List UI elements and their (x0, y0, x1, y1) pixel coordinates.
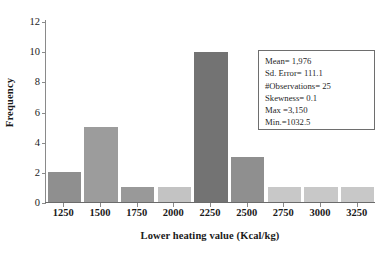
y-axis-title: Frequency (2, 0, 18, 204)
bar (121, 187, 154, 202)
y-axis-tick-label: 0 (18, 198, 40, 209)
statistics-box: Mean= 1,976Sd. Error= 111.1#Observations… (258, 50, 375, 130)
y-axis-tick-mark (42, 82, 46, 83)
x-axis-tick-label: 1500 (90, 208, 111, 219)
statistics-line: Skewness= 0.1 (265, 92, 374, 104)
histogram-chart: Frequency 024681012 12501500175020002250… (0, 0, 386, 259)
bar (304, 187, 337, 202)
bar (341, 187, 374, 202)
statistics-line: #Observations= 25 (265, 80, 374, 92)
y-axis-tick-mark (42, 203, 46, 204)
x-axis-tick-label: 3000 (310, 208, 331, 219)
bar (268, 187, 301, 202)
y-axis-tick-mark (42, 143, 46, 144)
x-axis-tick-label: 2250 (200, 208, 221, 219)
y-axis-tick-label: 4 (18, 137, 40, 148)
y-axis-tick-labels: 024681012 (18, 14, 40, 204)
x-axis-tick-label: 2000 (163, 208, 184, 219)
bar (84, 127, 117, 202)
y-axis-tick-label: 8 (18, 77, 40, 88)
x-axis-title: Lower heating value (Kcal/kg) (45, 230, 375, 241)
bar (48, 172, 81, 202)
x-axis-tick-label: 3250 (346, 208, 367, 219)
y-axis-tick-label: 10 (18, 47, 40, 58)
x-axis-tick-labels: 125015001750200022502500275030003250 (45, 208, 375, 224)
y-axis-tick-label: 6 (18, 107, 40, 118)
y-axis-title-text: Frequency (5, 77, 16, 126)
y-axis-tick-mark (42, 113, 46, 114)
y-axis-tick-mark (42, 173, 46, 174)
bar (194, 52, 227, 201)
statistics-line: Min.=1032.5 (265, 116, 374, 128)
bar (231, 157, 264, 202)
y-axis-tick-mark (42, 22, 46, 23)
x-axis-tick-label: 1750 (126, 208, 147, 219)
x-axis-tick-label: 2500 (236, 208, 257, 219)
x-axis-tick-label: 1250 (53, 208, 74, 219)
statistics-line: Mean= 1,976 (265, 55, 374, 67)
y-axis-tick-label: 12 (18, 17, 40, 28)
statistics-line: Max =3,150 (265, 104, 374, 116)
bar (158, 187, 191, 202)
x-axis-tick-label: 2750 (273, 208, 294, 219)
y-axis-tick-label: 2 (18, 168, 40, 179)
statistics-line: Sd. Error= 111.1 (265, 67, 374, 79)
y-axis-tick-mark (42, 52, 46, 53)
